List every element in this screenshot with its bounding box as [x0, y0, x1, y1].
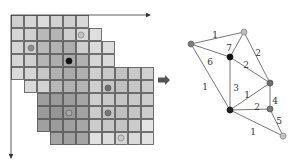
diagram-canvas: 176221312451 [0, 0, 294, 165]
grid-cell [50, 119, 63, 132]
grid-cell [24, 54, 37, 67]
grid-cell [11, 28, 24, 41]
grid-cell [141, 67, 154, 80]
graph-node-right-mid [267, 80, 273, 86]
seed-dot [78, 32, 84, 38]
grid-cell [50, 15, 63, 28]
grid-cell [102, 119, 115, 132]
graph-edge [230, 109, 270, 110]
grid-cell [89, 28, 102, 41]
edge-weight-label: 6 [207, 57, 213, 67]
grid-cell [37, 106, 50, 119]
grid-cell [76, 80, 89, 93]
grid-cell [115, 119, 128, 132]
grid-cell [50, 41, 63, 54]
grid-cell [11, 15, 24, 28]
grid-cell [102, 93, 115, 106]
graph-node-top [241, 29, 247, 35]
grid-cell [63, 41, 76, 54]
grid-cell [37, 41, 50, 54]
edge-weight-label: 1 [244, 90, 250, 100]
graph-node-center [227, 54, 233, 60]
grid-cell [76, 106, 89, 119]
grid-cell [115, 67, 128, 80]
grid-cell [89, 106, 102, 119]
edge-weight-label: 2 [255, 48, 261, 58]
right-arrow-icon [158, 75, 170, 85]
grid-cell [89, 93, 102, 106]
edge-weight-label: 2 [243, 60, 249, 70]
grid-cell [76, 93, 89, 106]
grid-cell [76, 15, 89, 28]
grid-cell [141, 93, 154, 106]
grid-cell [11, 67, 24, 80]
graph-node-left [188, 41, 194, 47]
grid-cell [128, 106, 141, 119]
graph-node-bottom-right [280, 133, 286, 139]
grid-to-graph-diagram: 176221312451 [0, 0, 294, 165]
grid-cell [37, 15, 50, 28]
grid-cell [50, 80, 63, 93]
grid-cell [89, 67, 102, 80]
grid-cell [63, 15, 76, 28]
grid-cell [24, 67, 37, 80]
edge-weight-label: 2 [254, 102, 260, 112]
grid-cell [63, 93, 76, 106]
grid-cell [102, 54, 115, 67]
transform-arrow-icon [158, 75, 170, 85]
grid-cell [24, 28, 37, 41]
seed-dot [66, 58, 72, 64]
grid-cell [50, 132, 63, 145]
grid-cell [63, 80, 76, 93]
grid-cell [115, 80, 128, 93]
grid-cell [89, 80, 102, 93]
grid-cell [141, 132, 154, 145]
grid-cell [76, 41, 89, 54]
graph-node-bottom [227, 107, 233, 113]
grid-cell [37, 93, 50, 106]
grid-cell [141, 119, 154, 132]
grid-cell [115, 106, 128, 119]
edge-weight-label: 4 [272, 96, 278, 106]
grid-cell [89, 132, 102, 145]
grid-cell [24, 80, 37, 93]
grid-cell [11, 41, 24, 54]
seed-dot [118, 135, 124, 141]
edge-weight-label: 1 [212, 30, 218, 40]
edge-weight-label: 5 [276, 116, 282, 126]
grid-cell [128, 119, 141, 132]
grid-cell [50, 106, 63, 119]
grid-cell [128, 67, 141, 80]
grid-cell [63, 132, 76, 145]
grid-cell [76, 132, 89, 145]
grid-cell [11, 54, 24, 67]
grid-cell [102, 41, 115, 54]
graph-edge [230, 57, 270, 83]
grid-cell [50, 67, 63, 80]
grid-cell [76, 54, 89, 67]
grid-cell [37, 54, 50, 67]
seed-dot [105, 110, 111, 116]
grid-cell [102, 67, 115, 80]
grid-cell [63, 119, 76, 132]
graph-edge [244, 32, 270, 83]
grid-cell [37, 119, 50, 132]
edge-weight-label: 1 [202, 82, 208, 92]
grid-cell [89, 54, 102, 67]
grid-cell [24, 15, 37, 28]
grid-cell [76, 119, 89, 132]
grid-cell [141, 106, 154, 119]
grid-cell [76, 67, 89, 80]
grid-cell [50, 28, 63, 41]
grid-cell [128, 93, 141, 106]
grid-cell [128, 80, 141, 93]
grid-cell [63, 67, 76, 80]
graph-edge [191, 44, 230, 57]
seed-dot [66, 110, 72, 116]
edge-weight-label: 7 [226, 43, 232, 53]
grid-cell [50, 93, 63, 106]
grid-cell [89, 119, 102, 132]
grid-cell [141, 80, 154, 93]
graph-node-right-low [267, 106, 273, 112]
grid-cell [37, 67, 50, 80]
